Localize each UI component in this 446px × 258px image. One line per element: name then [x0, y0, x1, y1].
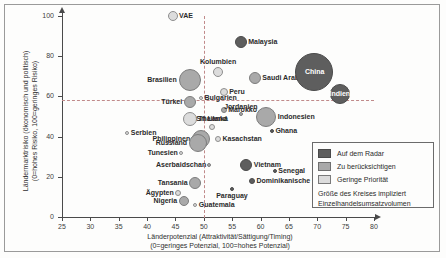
y-tick-mark — [58, 16, 62, 17]
bubble-sri-lanka[interactable] — [209, 124, 215, 130]
x-tick-mark — [175, 217, 176, 221]
x-tick-label: 70 — [306, 223, 328, 231]
x-tick-mark — [232, 217, 233, 221]
x-tick-label: 50 — [193, 223, 215, 231]
y-axis-title: Ländermarktrisiko (ökonomisch und politi… — [21, 23, 39, 219]
point-label-paraguay: Paraguay — [216, 192, 248, 200]
bubble-tunesien[interactable] — [179, 151, 183, 155]
y-axis-line — [62, 12, 63, 218]
legend-label-mid: Zu berücksichtigen — [337, 162, 396, 171]
x-tick-mark — [90, 217, 91, 221]
x-tick-mark — [62, 217, 63, 221]
x-axis-title-main: Länderpotenzial (Attraktivität/Sättigung… — [62, 232, 378, 241]
point-label-guatemala: Guatemala — [199, 201, 235, 209]
x-tick-mark — [261, 217, 262, 221]
x-tick-mark — [119, 217, 120, 221]
legend-item-auf-dem-radar: Auf dem Radar — [318, 147, 428, 160]
point-label-aserbaidschan: Aserbaidschan — [156, 161, 206, 169]
x-tick-label: 55 — [221, 223, 243, 231]
x-tick-label: 25 — [51, 223, 73, 231]
y-tick-mark — [58, 137, 62, 138]
x-axis-title-sub: (0=geringes Potenzial, 100=hohes Potenzi… — [62, 241, 378, 250]
x-tick-label: 65 — [278, 223, 300, 231]
x-tick-mark — [374, 217, 375, 221]
point-label-tunesien: Tunesien — [148, 149, 178, 157]
legend-swatch-icon-dark — [318, 149, 331, 158]
bubble-vae[interactable] — [168, 11, 178, 21]
x-axis-line — [62, 217, 378, 218]
y-tick-mark — [58, 56, 62, 57]
bubble-brasilien[interactable] — [179, 69, 201, 91]
bubble-kasachstan[interactable] — [215, 136, 221, 142]
point-label-china: China — [305, 68, 324, 76]
x-tick-mark — [289, 217, 290, 221]
point-label-senegal: Senegal — [278, 167, 305, 175]
x-tick-label: 35 — [108, 223, 130, 231]
country-portfolio-bubble-chart: 020406080100 253035404550556065707580 VA… — [0, 0, 446, 258]
legend-swatch-icon-mid — [318, 162, 331, 171]
y-axis-title-wrap: Ländermarktrisiko (ökonomisch und politi… — [12, 16, 28, 216]
bubble-russland[interactable] — [189, 134, 207, 152]
bubble-serbien[interactable] — [125, 131, 129, 135]
point-label-ghana: Ghana — [275, 127, 297, 135]
point-label-bulgarien: Bulgarien — [204, 94, 236, 102]
bubble-malaysia[interactable] — [235, 36, 247, 48]
y-axis-title-main: Ländermarktrisiko (ökonomisch und politi… — [21, 23, 30, 219]
point-label-nigeria: Nigeria — [153, 197, 177, 205]
x-tick-label: 80 — [363, 223, 385, 231]
point-label-malaysia: Malaysia — [248, 38, 277, 46]
x-axis-arrow-icon — [375, 214, 381, 220]
point-label-russland: Russland — [156, 139, 188, 147]
bubble-nigeria[interactable] — [179, 196, 189, 206]
y-axis-arrow-icon — [59, 7, 65, 13]
legend-size-note-line2: Einzelhandelsumsatzvolumen — [318, 199, 428, 209]
point-label-indonesien: Indonesien — [278, 113, 315, 121]
y-tick-mark — [58, 96, 62, 97]
x-tick-label: 30 — [79, 223, 101, 231]
y-axis-title-sub: (0=hohes Risiko, 100=geringes Risiko) — [30, 23, 39, 219]
point-label-jordanien: Jordanien — [224, 103, 257, 111]
point-label-kasachstan: Kasachstan — [223, 135, 262, 143]
legend-item-zu-beruecksichtigen: Zu berücksichtigen — [318, 160, 428, 173]
x-axis-title: Länderpotenzial (Attraktivität/Sättigung… — [62, 232, 378, 250]
x-tick-label: 60 — [250, 223, 272, 231]
legend-label-dark: Auf dem Radar — [337, 149, 384, 158]
point-label-vietnam: Vietnam — [254, 161, 281, 169]
y-tick-label: 100 — [28, 12, 54, 20]
x-tick-label: 75 — [335, 223, 357, 231]
point-label-brasilien: Brasilien — [147, 76, 177, 84]
point-label-tansania: Tansania — [158, 179, 188, 187]
x-tick-label: 45 — [164, 223, 186, 231]
point-label-sri-lanka: Sri Lanka — [196, 115, 228, 123]
legend-label-light: Geringe Priorität — [337, 175, 388, 184]
legend-swatch-icon-light — [318, 175, 331, 184]
x-tick-mark — [317, 217, 318, 221]
legend-size-note-line1: Größe des Kreises impliziert — [318, 189, 428, 199]
x-tick-mark — [147, 217, 148, 221]
point-label-vae: VAE — [179, 12, 193, 20]
x-tick-mark — [346, 217, 347, 221]
point-label-aegypten: Ägypten — [146, 189, 174, 197]
bubble-senegal[interactable] — [273, 169, 277, 173]
bubble-tuerkei[interactable] — [184, 96, 196, 108]
bubble-ghana[interactable] — [270, 129, 274, 133]
bubble-thailand[interactable] — [183, 112, 197, 126]
bubble-dominikanische-republik[interactable] — [249, 178, 255, 184]
bubble-indonesien[interactable] — [256, 107, 276, 127]
x-tick-label: 40 — [136, 223, 158, 231]
legend-size-note: Größe des Kreises impliziert Einzelhande… — [318, 189, 428, 208]
point-label-kolumbien: Kolumbien — [200, 58, 236, 66]
y-tick-mark — [58, 177, 62, 178]
legend-item-geringe-prioritaet: Geringe Priorität — [318, 173, 428, 186]
legend: Auf dem Radar Zu berücksichtigen Geringe… — [312, 142, 434, 208]
point-label-tuerkei: Türkei — [161, 98, 182, 106]
point-label-indien: Indien — [329, 90, 350, 98]
